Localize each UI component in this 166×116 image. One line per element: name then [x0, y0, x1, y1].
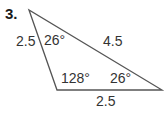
- side-bottom-label: 2.5: [96, 94, 115, 108]
- side-left-label: 2.5: [16, 34, 35, 48]
- angle-top-label: 26°: [44, 33, 65, 47]
- side-hypotenuse-label: 4.5: [103, 34, 122, 48]
- angle-bottom-left-label: 128°: [61, 71, 90, 85]
- angle-right-label: 26°: [110, 71, 131, 85]
- triangle-diagram: [0, 0, 166, 116]
- triangle: [29, 10, 162, 90]
